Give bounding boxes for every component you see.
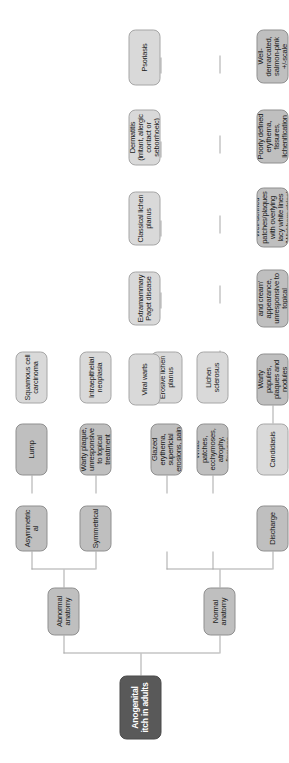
connector bbox=[63, 569, 64, 587]
finding-label: White patches, ecchymoses, atrophy, fiss… bbox=[196, 426, 228, 472]
diagnosis-label: Intraepithelial neoplasia bbox=[87, 354, 103, 400]
branch-node-asymmetrical[interactable]: Asymmetrical bbox=[15, 505, 47, 551]
finding-node-lump[interactable]: Lump bbox=[15, 423, 47, 475]
finding-label: Warty plaque, unresponsive to topical tr… bbox=[79, 426, 111, 472]
branch-node-abnormal-anatomy[interactable]: Abnormal anatomy bbox=[47, 587, 79, 635]
finding-node-poorly-defined-erythema[interactable]: Poorly defined erythema, fissures, liche… bbox=[256, 109, 281, 163]
connector bbox=[31, 475, 32, 493]
connector bbox=[95, 551, 96, 569]
connector bbox=[219, 135, 220, 153]
connector bbox=[219, 635, 220, 653]
finding-node-white-patches[interactable]: White patches, ecchymoses, atrophy, fiss… bbox=[196, 423, 228, 475]
diagram-canvas: Anogenital itch in adults Abnormal anato… bbox=[0, 0, 281, 763]
finding-label: Well-demarcated, salmon-pink +/-scale bbox=[256, 32, 281, 80]
connector bbox=[166, 551, 167, 569]
diagnosis-label: Psoriasis bbox=[140, 32, 148, 82]
finding-node-glazed-erythema[interactable]: Glazed erythema, superficial erosions, p… bbox=[150, 423, 182, 475]
connector bbox=[219, 215, 220, 233]
root-label: Anogenital itch in adults bbox=[130, 678, 149, 736]
finding-node-well-defined-patches[interactable]: Well-defined patches/plaques with overly… bbox=[256, 187, 281, 247]
finding-label: Well-defined patches/plaques with overly… bbox=[256, 190, 281, 244]
diagnosis-label: Viral warts bbox=[140, 356, 148, 402]
finding-label: Warty papules, plaques and nodules bbox=[256, 356, 281, 402]
diagnosis-label: Lichen sclerosus bbox=[204, 354, 220, 400]
finding-node-well-demarcated[interactable]: Well-demarcated, salmon-pink +/-scale bbox=[256, 29, 281, 83]
finding-label: Lump bbox=[27, 426, 35, 472]
connector bbox=[140, 653, 141, 675]
diagnosis-node-dermatitis[interactable]: Dermatitis (irritant, allergic contact o… bbox=[128, 109, 160, 165]
branch-label: Symmetrical bbox=[91, 508, 99, 548]
finding-label: Poorly defined erythema, fissures, liche… bbox=[256, 112, 281, 160]
diagnosis-node-psoriasis[interactable]: Psoriasis bbox=[128, 29, 160, 85]
branch-node-normal-anatomy[interactable]: Normal anatomy bbox=[203, 587, 235, 635]
branch-label: Asymmetrical bbox=[23, 508, 39, 548]
connector bbox=[219, 55, 220, 73]
diagnosis-label: Candidiasis bbox=[268, 426, 276, 472]
connector bbox=[212, 551, 213, 569]
connector bbox=[272, 405, 273, 423]
connector bbox=[31, 568, 95, 569]
diagnosis-label: Extramammary Paget disease bbox=[136, 274, 152, 322]
flowchart-rotated-group: Anogenital itch in adults Abnormal anato… bbox=[0, 0, 281, 763]
connector bbox=[95, 475, 96, 493]
diagnosis-label: Dermatitis (irritant, allergic contact o… bbox=[128, 112, 160, 162]
diagnosis-label: Squamous cell carcinoma bbox=[23, 354, 39, 400]
finding-node-warty-papules[interactable]: Warty papules, plaques and nodules bbox=[256, 353, 281, 405]
connector bbox=[166, 475, 167, 493]
diagnosis-node-intraepithelial-neoplasia[interactable]: Intraepithelial neoplasia bbox=[79, 351, 111, 403]
connector bbox=[219, 285, 220, 303]
connector bbox=[63, 635, 64, 653]
diagnosis-node-candidiasis[interactable]: Candidiasis bbox=[256, 423, 281, 475]
diagnosis-node-lichen-sclerosus[interactable]: Lichen sclerosus bbox=[196, 351, 228, 403]
branch-node-discharge[interactable]: Discharge bbox=[256, 505, 281, 551]
finding-label: Glazed erythema, superficial erosions, p… bbox=[150, 426, 182, 472]
branch-label: Abnormal anatomy bbox=[55, 590, 71, 632]
diagnosis-node-squamous-cell-carcinoma[interactable]: Squamous cell carcinoma bbox=[15, 351, 47, 403]
connector bbox=[219, 569, 220, 587]
connector bbox=[166, 568, 272, 569]
connector bbox=[272, 551, 273, 569]
branch-node-symmetrical[interactable]: Symmetrical bbox=[79, 505, 111, 551]
connector bbox=[63, 652, 219, 653]
diagnosis-node-classical-lichen-planus[interactable]: Classical lichen planus bbox=[128, 191, 160, 245]
diagnosis-node-extramammary-paget-disease[interactable]: Extramammary Paget disease bbox=[128, 271, 160, 325]
connector bbox=[31, 551, 32, 569]
connector bbox=[212, 475, 213, 493]
branch-label: Discharge bbox=[268, 508, 276, 548]
finding-label: Strawberries and cream' appearance, unre… bbox=[256, 272, 281, 324]
diagnosis-label: Classical lichen planus bbox=[136, 194, 152, 242]
finding-node-strawberries-and-cream[interactable]: Strawberries and cream' appearance, unre… bbox=[256, 269, 281, 327]
diagnosis-node-viral-warts[interactable]: Viral warts bbox=[128, 353, 160, 405]
finding-node-warty-plaque[interactable]: Warty plaque, unresponsive to topical tr… bbox=[79, 423, 111, 475]
root-node[interactable]: Anogenital itch in adults bbox=[119, 675, 161, 739]
branch-label: Normal anatomy bbox=[211, 590, 227, 632]
